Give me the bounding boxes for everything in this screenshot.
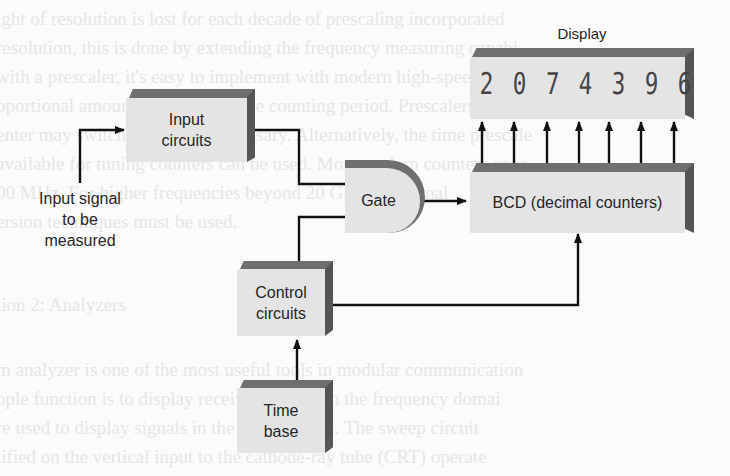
input-circuits-side: [247, 89, 255, 162]
digit: 6: [672, 66, 698, 101]
timebase-bevel: [240, 380, 333, 388]
bcd-label: BCD (decimal counters): [470, 172, 685, 233]
display-title: Display: [547, 23, 617, 44]
time-base-label: Time base: [237, 388, 325, 453]
display-digits: 2 0 7 4 3 9 6: [470, 66, 701, 101]
bcd-side: [685, 163, 694, 233]
display-bevel: [472, 48, 694, 57]
input-signal-arrow: [80, 130, 124, 183]
control-circuits-label: Control circuits: [237, 269, 325, 336]
gate-label: Gate: [345, 168, 420, 233]
digit: 2: [474, 66, 500, 101]
control-side: [325, 261, 333, 336]
digit: 7: [540, 66, 566, 101]
timebase-side: [325, 380, 333, 453]
input-circuits-label: Input circuits: [126, 98, 247, 162]
digit: 9: [639, 66, 665, 101]
digit: 0: [507, 66, 533, 101]
control-bevel: [240, 261, 333, 269]
control-to-gate-wire: [299, 217, 346, 268]
control-to-bcd-arrow: [330, 234, 578, 305]
bcd-bevel: [472, 163, 694, 172]
input-signal-label: Input signal to be measured: [20, 188, 140, 251]
digit: 3: [606, 66, 632, 101]
input-circuits-bevel: [129, 89, 255, 98]
input-to-gate-wire: [252, 130, 346, 184]
digit: 4: [573, 66, 599, 101]
